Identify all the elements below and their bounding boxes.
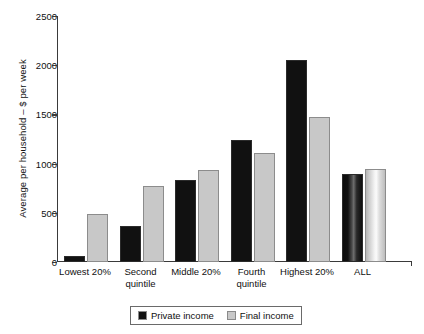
bar-chart: Average per household – $ per week 05001… (0, 0, 424, 334)
bar-final-income (198, 170, 219, 262)
bar-group (60, 16, 112, 262)
y-axis-tick-label: 2500 (17, 11, 57, 22)
legend-swatch-private-income (138, 311, 147, 320)
legend-item-private-income: Private income (138, 310, 214, 321)
bar-private-income (120, 226, 141, 262)
y-axis-tick-label: 1000 (17, 158, 57, 169)
bar-group (282, 16, 334, 262)
bar-group (116, 16, 168, 262)
bar-final-income (365, 169, 386, 262)
bar-private-income (286, 60, 307, 262)
legend-label-private-income: Private income (151, 310, 214, 321)
bar-group (171, 16, 223, 262)
bar-group (227, 16, 279, 262)
bar-final-income (143, 186, 164, 262)
bar-final-income (254, 153, 275, 262)
legend-item-final-income: Final income (227, 310, 294, 321)
bar-group (338, 16, 390, 262)
x-axis-label-line: ALL (327, 266, 399, 278)
chart-legend: Private income Final income (130, 306, 302, 325)
bar-private-income (64, 256, 85, 262)
bar-final-income (309, 117, 330, 262)
y-axis-tick-label: 500 (17, 207, 57, 218)
y-axis-tick-label: 2000 (17, 60, 57, 71)
x-axis-label-line: quintile (216, 278, 288, 290)
legend-swatch-final-income (227, 311, 236, 320)
bar-private-income (175, 180, 196, 262)
bar-private-income (342, 174, 363, 262)
legend-label-final-income: Final income (240, 310, 294, 321)
x-axis-label-line: quintile (105, 278, 177, 290)
x-axis-label: ALL (327, 266, 399, 278)
y-axis-title: Average per household – $ per week (17, 24, 28, 254)
bar-final-income (87, 214, 108, 262)
bar-private-income (231, 140, 252, 262)
y-axis-tick-label: 1500 (17, 109, 57, 120)
plot-area (57, 16, 412, 262)
